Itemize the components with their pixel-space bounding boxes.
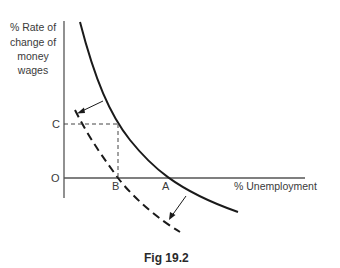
shifted-curve xyxy=(75,110,180,232)
y-axis-label-line-1: % Rate of xyxy=(10,21,56,33)
shift-arrow-upper xyxy=(77,101,103,114)
shift-arrow-lower xyxy=(169,196,186,220)
arrowhead-icon xyxy=(77,108,85,114)
y-axis-label-line-2: change of xyxy=(10,36,56,48)
phillips-curve-diagram: % Rate of change of money wages % Unempl… xyxy=(0,0,340,268)
y-axis-label-line-4: wages xyxy=(17,64,48,76)
y-axis-label: % Rate of change of money wages xyxy=(10,21,56,76)
figure-caption: Fig 19.2 xyxy=(144,251,189,265)
origin-label: O xyxy=(51,172,60,184)
y-axis-label-line-3: money xyxy=(17,50,49,62)
point-a-label: A xyxy=(162,180,170,192)
point-b-label: B xyxy=(112,180,119,192)
original-curve xyxy=(80,22,238,212)
diagram-canvas: % Rate of change of money wages % Unempl… xyxy=(0,0,340,268)
arrowhead-icon xyxy=(169,212,176,220)
point-c-label: C xyxy=(52,118,60,130)
x-axis-label: % Unemployment xyxy=(234,180,317,192)
